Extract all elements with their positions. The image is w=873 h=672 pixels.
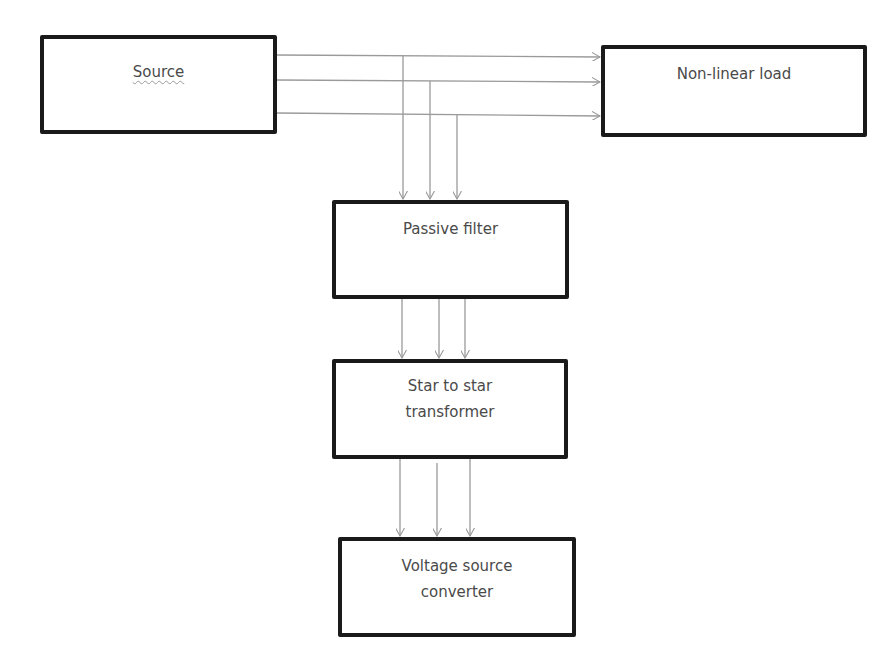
nonlinear-load-block: Non-linear load <box>601 45 867 137</box>
passive-filter-block: Passive filter <box>332 200 569 299</box>
nonlinear-load-label: Non-linear load <box>605 49 863 87</box>
vsc-label-line2: converter <box>342 579 572 605</box>
vsc-block: Voltage source converter <box>338 537 576 637</box>
source-to-filter-connector <box>403 56 457 199</box>
passive-filter-label: Passive filter <box>336 204 565 242</box>
vsc-label-line1: Voltage source <box>342 553 572 579</box>
source-block: Source <box>40 35 277 134</box>
source-label: Source <box>133 63 185 81</box>
filter-to-transformer-connector <box>402 299 465 358</box>
transformer-label-line1: Star to star <box>336 373 564 399</box>
transformer-label-line2: transformer <box>336 399 564 425</box>
source-to-load-connector <box>277 55 600 116</box>
transformer-to-vsc-connector <box>400 459 470 536</box>
transformer-block: Star to star transformer <box>332 359 568 459</box>
block-diagram: Source Non-linear load Passive filter St… <box>0 0 873 672</box>
